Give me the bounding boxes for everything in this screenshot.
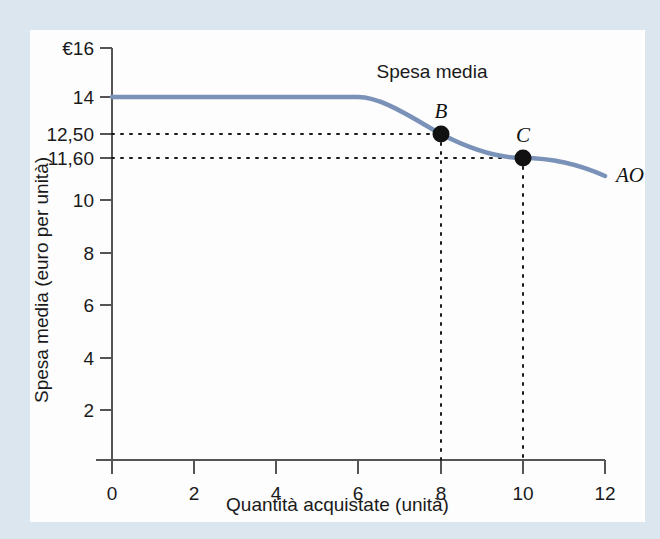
y-tick-label-8: 8 bbox=[83, 243, 94, 264]
y-tick-label-6: 6 bbox=[83, 295, 94, 316]
data-point-c bbox=[515, 150, 532, 167]
curve-name-label: Spesa media bbox=[377, 61, 488, 82]
chart-annotations: Spesa media B C AO bbox=[377, 61, 644, 187]
y-tick-label-1250: 12,50 bbox=[46, 124, 94, 145]
y-tick-label-14: 14 bbox=[73, 87, 95, 108]
curve-end-label: AO bbox=[614, 163, 644, 187]
y-tick-label-1160: 11,60 bbox=[48, 148, 94, 169]
figure-panel: €16 14 12,50 11,60 10 8 6 4 2 0 2 4 6 8 … bbox=[30, 30, 645, 522]
x-axis-title-holder: Quantità acquistate (unità) bbox=[30, 494, 645, 516]
y-tick-label-2: 2 bbox=[83, 400, 94, 421]
axes-group bbox=[96, 48, 605, 474]
point-c-label: C bbox=[516, 123, 531, 147]
guide-lines bbox=[112, 134, 523, 460]
x-axis-title-text: Quantità acquistate (unità) bbox=[226, 494, 449, 515]
data-point-b bbox=[433, 126, 450, 143]
curve-path bbox=[112, 97, 605, 176]
average-expenditure-curve bbox=[112, 97, 605, 176]
x-axis-ticks bbox=[112, 460, 523, 474]
axis-titles: Spesa media (euro per unità) bbox=[31, 157, 52, 403]
y-tick-label-4: 4 bbox=[83, 348, 94, 369]
point-b-label: B bbox=[435, 99, 448, 123]
y-axis-title: Spesa media (euro per unità) bbox=[31, 157, 52, 403]
average-expenditure-chart: €16 14 12,50 11,60 10 8 6 4 2 0 2 4 6 8 … bbox=[30, 30, 645, 522]
y-axis-ticks bbox=[100, 48, 112, 410]
y-axis-tick-labels: €16 14 12,50 11,60 10 8 6 4 2 bbox=[46, 38, 94, 421]
y-tick-label-10: 10 bbox=[73, 190, 94, 211]
y-tick-label-16: €16 bbox=[62, 38, 94, 59]
